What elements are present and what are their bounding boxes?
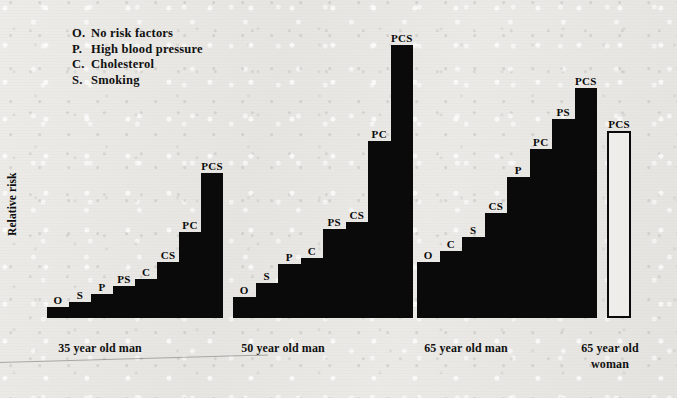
bar-label-pcs-group2: PCS (388, 32, 416, 44)
bar-label-cs-group2: CS (346, 209, 369, 221)
bar-label-pc-group3: PC (530, 136, 553, 148)
bar-label-o-group2: O (233, 284, 256, 296)
bar-p-group2 (278, 264, 301, 318)
bar-label-s-group3: S (462, 224, 485, 236)
plot-area: OSPPSCCSPCPCS35 year old manOSPCPSCSPCPC… (0, 0, 677, 398)
bar-ps-group2 (323, 229, 346, 318)
bar-label-s-group1: S (69, 289, 91, 301)
bar-ps-group3 (552, 119, 575, 318)
bar-label-p-group2: P (278, 251, 301, 263)
bar-pcs-group3 (575, 88, 598, 318)
bar-s-group2 (256, 283, 279, 318)
bar-p-group3 (507, 177, 530, 318)
x-axis-caption-3-line1: 65 year old man (406, 340, 526, 356)
bar-group-3: OCSCSPPCPSPCS (417, 45, 597, 318)
bar-cs-group3 (485, 213, 508, 318)
x-axis-caption-4-line2: woman (550, 356, 670, 372)
x-axis-caption-1-line1: 35 year old man (40, 340, 160, 356)
bar-c-group2 (301, 258, 324, 318)
x-axis-caption-2-line1: 50 year old man (223, 340, 343, 356)
bar-label-c-group2: C (301, 245, 324, 257)
bar-label-pc-group1: PC (179, 219, 201, 231)
bar-o-group3 (417, 262, 440, 318)
bar-label-cs-group3: CS (485, 200, 508, 212)
bar-label-pcs-group1: PCS (198, 160, 226, 172)
bar-cs-group2 (346, 222, 369, 318)
x-axis-caption-4-line1: 65 year old (550, 340, 670, 356)
relative-risk-bar-chart: O. No risk factors P. High blood pressur… (0, 0, 677, 398)
baseline-group-2 (233, 315, 413, 318)
bar-label-ps-group1: PS (113, 273, 135, 285)
bar-c-group3 (440, 251, 463, 318)
bar-group-1: OSPPSCCSPCPCS (47, 45, 223, 318)
x-axis-caption-3: 65 year old man (406, 340, 526, 356)
bar-pcs-group1 (201, 173, 223, 318)
bar-label-c-group3: C (440, 238, 463, 250)
baseline-group-3 (417, 315, 597, 318)
bar-c-group1 (135, 279, 157, 318)
bar-label-pcs-group3: PCS (572, 75, 600, 87)
bar-label-o-group1: O (47, 294, 69, 306)
x-axis-caption-4: 65 year oldwoman (550, 340, 670, 372)
bar-group-2: OSPCPSCSPCPCS (233, 45, 413, 318)
bar-label-o-group3: O (417, 249, 440, 261)
bar-pc-group3 (530, 149, 553, 318)
bar-label-c-group1: C (135, 266, 157, 278)
bar-group-4: PCS (607, 45, 631, 318)
bar-pc-group1 (179, 232, 201, 318)
baseline-group-1 (47, 315, 223, 318)
bar-label-p-group3: P (507, 164, 530, 176)
bar-pcs-group2 (391, 45, 414, 318)
bar-label-s-group2: S (256, 270, 279, 282)
x-axis-caption-2: 50 year old man (223, 340, 343, 356)
bar-label-cs-group1: CS (157, 249, 179, 261)
bar-label-ps-group3: PS (552, 106, 575, 118)
x-axis-caption-1: 35 year old man (40, 340, 160, 356)
bar-cs-group1 (157, 262, 179, 318)
bar-label-ps-group2: PS (323, 216, 346, 228)
bar-label-p-group1: P (91, 281, 113, 293)
bar-label-pc-group2: PC (368, 128, 391, 140)
bar-pc-group2 (368, 141, 391, 318)
bar-s-group3 (462, 237, 485, 318)
bar-pcs-group4 (607, 131, 631, 318)
bar-label-pcs-group4: PCS (605, 118, 633, 130)
bar-ps-group1 (113, 286, 135, 318)
